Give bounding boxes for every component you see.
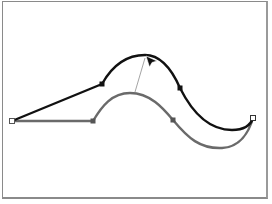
original-anchor-point[interactable] <box>171 118 176 123</box>
original-curve[interactable] <box>12 93 253 148</box>
drawing-stage[interactable] <box>0 0 272 204</box>
edited-anchor-point[interactable] <box>100 82 105 87</box>
original-anchor-point[interactable] <box>91 119 96 124</box>
start-endpoint[interactable] <box>10 119 15 124</box>
drag-guide-line <box>135 58 145 92</box>
end-endpoint[interactable] <box>251 116 256 121</box>
edited-anchor-point[interactable] <box>178 86 183 91</box>
